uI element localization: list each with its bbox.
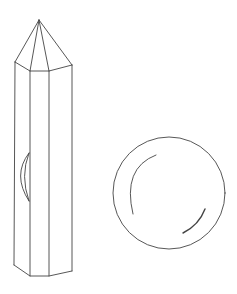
wand-bottom-edge (14, 265, 72, 276)
sphere-highlight-bottom (183, 209, 205, 233)
crystal-wand (14, 20, 72, 276)
crystal-sphere (113, 137, 225, 249)
illustration (0, 0, 237, 294)
wand-top-edge (15, 62, 72, 71)
wand-body-edges (14, 62, 72, 276)
sphere-outline (113, 137, 225, 249)
sphere-highlight-top (130, 155, 156, 214)
wand-tip (15, 20, 72, 71)
